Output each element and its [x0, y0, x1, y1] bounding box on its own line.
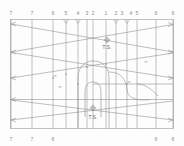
right-arrow-group [168, 23, 173, 123]
top-label-11: 5 [136, 10, 139, 16]
inline-label-0: m [54, 74, 57, 78]
top-label-5: 3 [86, 10, 89, 16]
cross-section-figure: 7 7 6 5 4 3 2 1 2 3 4 5 6 6 7 7 6 6 6 T.… [0, 0, 184, 146]
right-flexure-group [109, 72, 158, 100]
left-arrow-group [11, 22, 16, 122]
inline-label-2: m [128, 80, 131, 84]
inline-label-1: m [59, 85, 62, 89]
top-label-0: 7 [10, 10, 13, 16]
right-flexure-contour [109, 72, 150, 100]
top-label-6: 2 [92, 10, 95, 16]
ts-label-upper: T.S. [102, 44, 112, 50]
top-label-12: 6 [155, 10, 158, 16]
ts-label-lower: T.S. [88, 114, 98, 120]
bottom-label-0: 7 [10, 136, 13, 142]
top-label-7: 1 [105, 10, 108, 16]
bottom-label-4: 6 [172, 136, 175, 142]
inline-label-3: m [145, 60, 148, 64]
top-label-8: 2 [115, 10, 118, 16]
top-label-3: 5 [65, 10, 68, 16]
figure-canvas: 7 7 6 5 4 3 2 1 2 3 4 5 6 6 7 7 6 6 6 T.… [0, 0, 184, 146]
bottom-axis-labels: 7 7 6 6 6 [10, 136, 175, 142]
top-axis-labels: 7 7 6 5 4 3 2 1 2 3 4 5 6 6 [10, 10, 175, 16]
top-label-13: 6 [172, 10, 175, 16]
top-label-9: 3 [121, 10, 124, 16]
top-label-4: 4 [77, 10, 80, 16]
bottom-label-1: 7 [31, 136, 34, 142]
top-label-2: 6 [52, 10, 55, 16]
right-flexure-contour-2 [137, 84, 158, 96]
top-label-1: 7 [31, 10, 34, 16]
bottom-label-3: 6 [155, 136, 158, 142]
bottom-label-2: 6 [52, 136, 55, 142]
fork-marker-group [64, 20, 130, 24]
junction-dot-group [52, 63, 128, 85]
correlation-line-group [11, 24, 173, 120]
top-label-10: 4 [130, 10, 133, 16]
